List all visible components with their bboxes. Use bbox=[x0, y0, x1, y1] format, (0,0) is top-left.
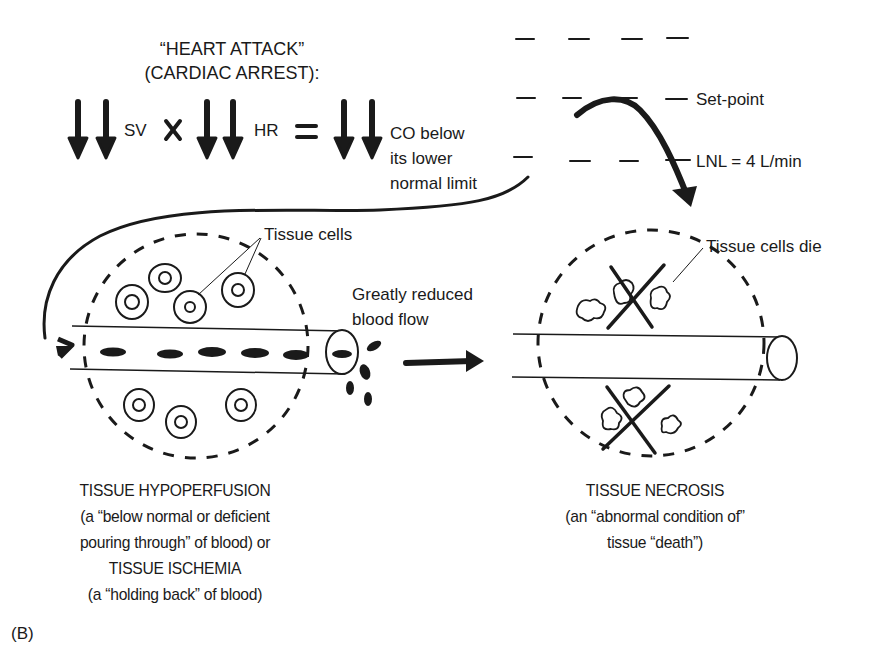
caption-line: (a “below normal or deficient bbox=[32, 504, 317, 530]
left-tissue-region bbox=[70, 234, 383, 458]
flow-line-2: blood flow bbox=[352, 307, 473, 332]
caption-line: TISSUE ISCHEMIA bbox=[32, 556, 317, 582]
caption-line: (a “holding back” of blood) bbox=[32, 582, 317, 608]
drop-arrow-icon bbox=[577, 99, 688, 198]
figure-label: (B) bbox=[11, 623, 34, 644]
sv-label: SV bbox=[124, 120, 147, 141]
co-decrease-arrows-icon bbox=[335, 102, 381, 158]
title-line-1: “HEART ATTACK” bbox=[128, 37, 336, 61]
caption-line: pouring through” of blood) or bbox=[32, 530, 317, 556]
caption-line: tissue “death”) bbox=[517, 530, 793, 556]
reduced-flow-label: Greatly reduced blood flow bbox=[352, 282, 473, 332]
tissue-cells-label: Tissue cells bbox=[264, 224, 352, 245]
hr-decrease-arrows-icon bbox=[198, 102, 242, 158]
multiply-icon bbox=[166, 121, 180, 139]
diagram-title: “HEART ATTACK” (CARDIAC ARREST): bbox=[128, 37, 336, 85]
caption-line: TISSUE NECROSIS bbox=[517, 478, 793, 504]
flow-line-1: Greatly reduced bbox=[352, 282, 473, 307]
right-tissue-region bbox=[512, 230, 797, 456]
title-line-2: (CARDIAC ARREST): bbox=[128, 61, 336, 85]
co-line-2: its lower bbox=[390, 146, 477, 171]
sv-decrease-arrows-icon bbox=[69, 102, 115, 158]
hypoperfusion-caption: TISSUE HYPOPERFUSION (a “below normal or… bbox=[32, 478, 317, 608]
setpoint-label: Set-point bbox=[696, 89, 764, 110]
co-line-1: CO below bbox=[390, 121, 477, 146]
caption-line: (an “abnormal condition of” bbox=[517, 504, 793, 530]
co-line-3: normal limit bbox=[390, 171, 477, 196]
lnl-label: LNL = 4 L/min bbox=[696, 151, 802, 172]
progression-arrow-icon bbox=[406, 350, 484, 372]
hr-label: HR bbox=[254, 120, 279, 141]
necrosis-caption: TISSUE NECROSIS (an “abnormal condition … bbox=[517, 478, 793, 556]
tissue-cells-die-label: Tissue cells die bbox=[706, 236, 822, 257]
caption-line: TISSUE HYPOPERFUSION bbox=[32, 478, 317, 504]
equals-icon bbox=[297, 126, 316, 137]
co-result-text: CO below its lower normal limit bbox=[390, 121, 477, 196]
